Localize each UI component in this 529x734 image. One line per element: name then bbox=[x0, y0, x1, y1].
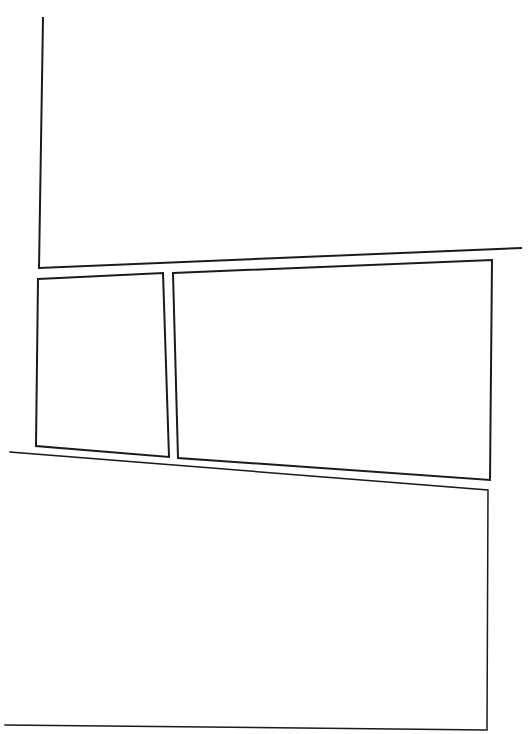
comic-page bbox=[0, 0, 529, 734]
panel-2-border bbox=[36, 273, 169, 457]
panel-layout bbox=[0, 0, 529, 734]
panel-4-border bbox=[5, 452, 488, 730]
panel-3-border bbox=[173, 260, 492, 480]
panel-1-border bbox=[39, 18, 521, 268]
